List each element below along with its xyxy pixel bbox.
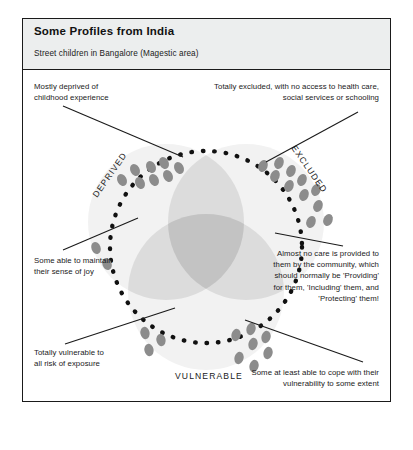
figure-header: Some Profiles from India Street children… — [23, 19, 390, 70]
caption-cope: Some at least able to cope with their vu… — [219, 367, 379, 389]
diagram-canvas: DEPRIVED EXCLUDED VULNERABLE Mostly depr… — [23, 70, 390, 401]
caption-care: Almost no care is provided to them by th… — [259, 248, 379, 304]
caption-deprived: Mostly deprived of childhood experience — [34, 81, 164, 103]
figure-frame: Some Profiles from India Street children… — [22, 18, 391, 402]
caption-excluded: Totally excluded, with no access to heal… — [204, 81, 379, 103]
caption-exposure: Totally vulnerable to all risk of exposu… — [34, 347, 164, 369]
figure-title: Some Profiles from India — [34, 25, 174, 37]
figure-subtitle: Street children in Bangalore (Magestic a… — [34, 49, 199, 58]
caption-joy: Some able to maintain their sense of joy — [34, 255, 164, 277]
leader-line-excluded — [266, 112, 358, 162]
leader-line-deprived — [63, 106, 183, 157]
